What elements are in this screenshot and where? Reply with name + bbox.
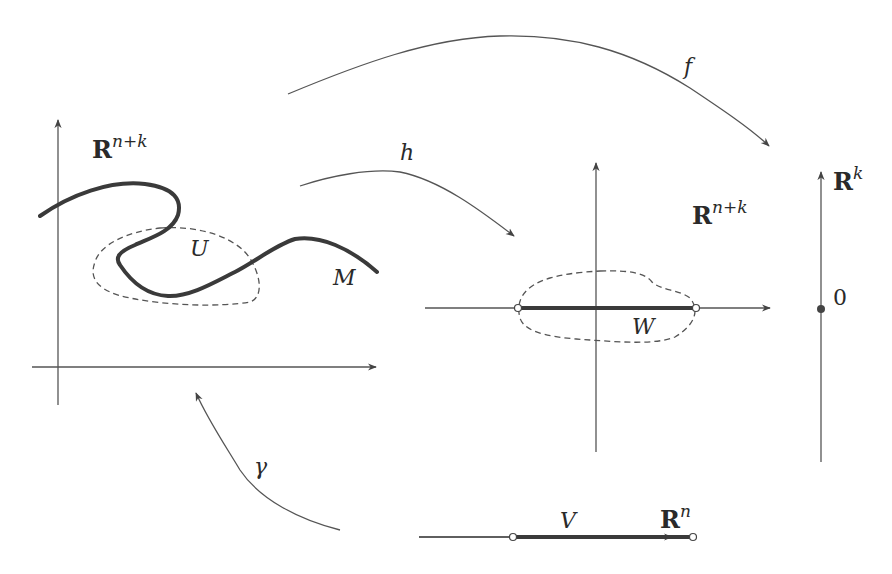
neighborhood-u-label: U [190,236,210,261]
map-f-arrow [288,36,769,146]
left-space-label: Rn+k [92,131,147,164]
map-h-label: h [400,140,414,165]
right-panel: Rk 0 [817,163,863,462]
segment-left-endpoint [515,305,522,312]
right-space-label: Rk [833,163,863,196]
left-panel: Rn+k U M [32,120,377,405]
neighborhood-u [93,228,259,305]
bottom-space-label: Rn [660,501,691,534]
map-h-arrow [300,171,514,236]
map-f-label: f [682,54,696,79]
map-gamma-arrow [196,393,340,530]
manifold-m-label: M [332,265,356,290]
bottom-panel: V Rn [419,501,697,541]
v-left-endpoint [510,534,517,541]
middle-space-label: Rn+k [692,197,747,230]
diagram-canvas: Rn+k U M f h γ Rn+k W Rk 0 [0,0,892,574]
map-arrows: f h γ [196,36,769,530]
middle-panel: Rn+k W [425,163,770,452]
origin-point [817,305,825,313]
origin-label: 0 [833,285,847,310]
region-w-label: W [632,314,657,339]
segment-right-endpoint [693,305,700,312]
v-right-endpoint [690,534,697,541]
segment-v-label: V [560,508,578,533]
map-gamma-label: γ [254,454,268,479]
